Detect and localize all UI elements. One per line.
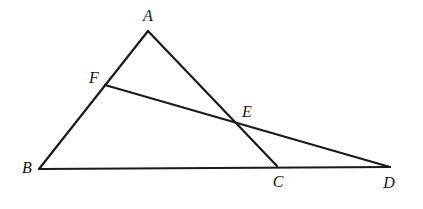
segment-FD — [105, 85, 390, 167]
segment-AC — [148, 31, 277, 166]
geometry-canvas — [0, 0, 423, 209]
segment-BD — [39, 167, 390, 169]
vertex-label-D: D — [383, 175, 395, 191]
vertex-label-B: B — [22, 160, 32, 176]
geometry-figure: A F E B C D — [0, 0, 423, 209]
vertex-label-F: F — [89, 70, 99, 86]
segment-layer — [39, 31, 390, 169]
vertex-label-E: E — [242, 104, 252, 120]
segment-AB — [39, 31, 148, 169]
vertex-label-A: A — [143, 8, 153, 24]
vertex-label-C: C — [273, 174, 284, 190]
